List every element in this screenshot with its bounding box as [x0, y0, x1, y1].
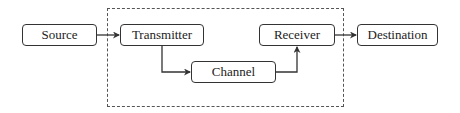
node-channel-label: Channel	[212, 64, 255, 80]
edge-channel-receiver	[276, 47, 297, 72]
node-transmitter: Transmitter	[120, 24, 204, 46]
node-channel: Channel	[191, 61, 276, 83]
edge-transmitter-channel	[162, 46, 190, 72]
node-transmitter-label: Transmitter	[132, 27, 192, 43]
node-source-label: Source	[41, 27, 77, 43]
node-receiver-label: Receiver	[274, 27, 320, 43]
connector-arrows	[0, 0, 460, 113]
node-receiver: Receiver	[259, 24, 335, 46]
node-source: Source	[22, 24, 97, 46]
node-destination: Destination	[357, 24, 438, 46]
node-destination-label: Destination	[368, 27, 428, 43]
